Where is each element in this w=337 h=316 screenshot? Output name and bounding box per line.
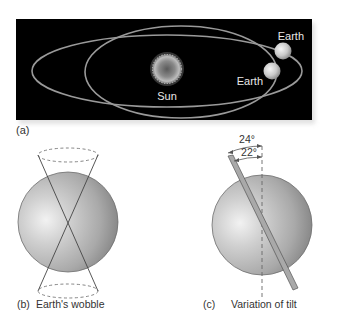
arrow-24-right	[257, 144, 262, 148]
angle-label-24: 24°	[239, 133, 255, 145]
angle-label-22: 22°	[241, 146, 257, 158]
earth-icon-bottom	[264, 63, 281, 80]
panel-c-caption: Variation of tilt	[231, 298, 297, 310]
panel-c-label: (c)	[203, 298, 215, 310]
panel-b-caption: Earth's wobble	[36, 298, 105, 310]
sun-label: Sun	[157, 90, 177, 102]
wobble-cone-top-ellipse	[38, 148, 98, 162]
sun-icon	[150, 52, 184, 86]
earth-label-top: Earth	[278, 30, 304, 42]
earth-label-bottom: Earth	[237, 75, 263, 87]
arrow-24-left	[228, 150, 233, 154]
wobble-cone-bottom-ellipse	[38, 284, 98, 298]
panel-b-wobble	[18, 148, 118, 298]
milankovitch-diagram: Sun Earth Earth (a) (b) Earth's wobble 2…	[0, 0, 337, 316]
panel-b-label: (b)	[17, 298, 30, 310]
earth-icon-top	[275, 43, 292, 60]
arrow-22-right	[257, 155, 262, 159]
panel-a-orbits: Sun Earth Earth	[16, 19, 315, 124]
panel-c-tilt: 24° 22°	[212, 133, 312, 297]
panel-a-label: (a)	[16, 124, 29, 136]
